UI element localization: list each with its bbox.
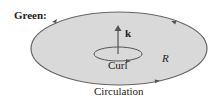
- curl-label: Curl: [108, 60, 128, 71]
- circulation-label: Circulation: [94, 86, 144, 97]
- diagram-title: Green:: [14, 10, 47, 21]
- k-label: k: [125, 28, 131, 39]
- region-label: R: [162, 53, 169, 64]
- region-ellipse: [31, 12, 207, 85]
